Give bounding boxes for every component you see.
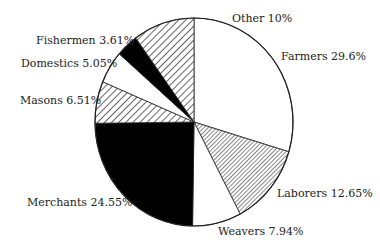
label-other: Other 10%: [232, 12, 292, 25]
pie-slices: [95, 18, 293, 226]
label-masons: Masons 6.51%: [20, 94, 101, 107]
slice-merchants: [95, 122, 194, 226]
pie-chart: Other 10% Fishermen 3.61% Domestics 5.05…: [0, 0, 380, 244]
label-domestics: Domestics 5.05%: [21, 57, 117, 70]
label-merchants: Merchants 24.55%: [27, 196, 132, 209]
label-weavers: Weavers 7.94%: [218, 225, 304, 238]
label-laborers: Laborers 12.65%: [277, 187, 373, 200]
label-fishermen: Fishermen 3.61%: [36, 34, 134, 47]
label-farmers: Farmers 29.6%: [281, 50, 366, 63]
